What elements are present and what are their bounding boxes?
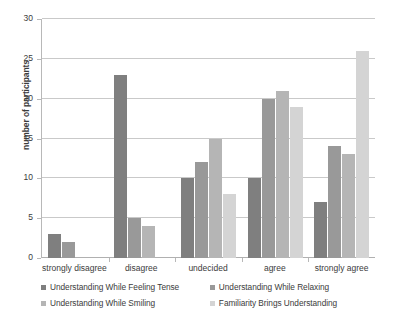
bar-group [308,19,375,258]
bar-groups [42,19,375,258]
bar-group [42,19,109,258]
category-tick [109,258,110,262]
bar-slot [290,19,303,258]
bar-group [175,19,242,258]
category-tick [175,258,176,262]
x-axis-labels: strongly disagreedisagreeundecidedagrees… [41,263,375,273]
bar-slot [48,19,61,258]
x-axis-label: disagree [108,263,175,273]
bar-slot [62,19,75,258]
bar-slot [114,19,127,258]
category-tick [242,258,243,262]
bar-slot [195,19,208,258]
bar[interactable] [276,91,289,258]
x-axis-label: strongly agree [308,263,375,273]
bar-slot [223,19,236,258]
bar-slot [262,19,275,258]
legend-swatch-icon [210,285,215,290]
legend-row-1: Understanding While Feeling TenseUnderst… [41,279,375,295]
bar-slot [276,19,289,258]
bar-group [242,19,309,258]
y-axis-ticks: 051015202530 [0,19,41,258]
bar[interactable] [128,218,141,258]
bar[interactable] [142,226,155,258]
bar-group [109,19,176,258]
y-tick-label: 15 [24,133,33,143]
legend-row-2: Understanding While SmilingFamiliarity B… [41,295,375,311]
y-tick-mark [37,258,41,259]
y-tick-label: 25 [24,53,33,63]
bar[interactable] [48,234,61,258]
x-axis-label: strongly disagree [41,263,108,273]
legend-swatch-icon [210,301,215,306]
bar[interactable] [328,146,341,258]
bar[interactable] [223,194,236,258]
bar-slot [142,19,155,258]
bar[interactable] [195,162,208,258]
plot-area [41,19,375,258]
bar[interactable] [114,75,127,258]
legend-label: Understanding While Smiling [50,298,155,308]
legend-item[interactable]: Understanding While Feeling Tense [41,282,210,292]
category-tick [308,258,309,262]
bar-slot [128,19,141,258]
bar[interactable] [181,178,194,258]
legend-label: Familiarity Brings Understanding [219,298,337,308]
legend-item[interactable]: Familiarity Brings Understanding [210,298,375,308]
bar-slot [209,19,222,258]
bar-slot [181,19,194,258]
bar[interactable] [342,154,355,258]
y-tick-label: 10 [24,172,33,182]
y-tick-label: 30 [24,13,33,23]
bar[interactable] [314,202,327,258]
bar-chart: number of participants 051015202530 stro… [0,0,395,325]
bar[interactable] [262,99,275,258]
bar-slot [90,19,103,258]
y-tick-label: 20 [24,93,33,103]
bar-slot [356,19,369,258]
bar[interactable] [356,51,369,258]
bar[interactable] [290,107,303,258]
bar-slot [76,19,89,258]
bar[interactable] [248,178,261,258]
legend-label: Understanding While Feeling Tense [50,282,179,292]
chart-legend: Understanding While Feeling TenseUnderst… [41,279,375,311]
bar[interactable] [209,139,222,259]
y-tick-label: 5 [28,212,33,222]
legend-item[interactable]: Understanding While Smiling [41,298,210,308]
legend-swatch-icon [41,285,46,290]
bar-slot [342,19,355,258]
x-axis-label: undecided [175,263,242,273]
bar-slot [328,19,341,258]
legend-item[interactable]: Understanding While Relaxing [210,282,375,292]
bar-slot [248,19,261,258]
bar-slot [156,19,169,258]
legend-label: Understanding While Relaxing [219,282,329,292]
legend-swatch-icon [41,301,46,306]
bar-slot [314,19,327,258]
bar[interactable] [62,242,75,258]
x-axis-label: agree [241,263,308,273]
y-tick-label: 0 [28,252,33,262]
